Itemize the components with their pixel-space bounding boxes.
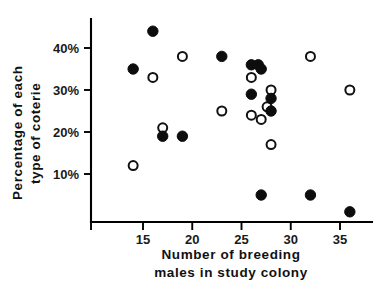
x-axis-group: 1520253035	[91, 222, 372, 247]
x-axis-title-line2: males in study colony	[154, 265, 308, 280]
x-axis-title-line1: Number of breeding	[161, 247, 300, 262]
data-point-open-5	[247, 73, 256, 82]
x-axis-title: Number of breeding males in study colony	[154, 247, 308, 280]
x-tick-label-30: 30	[284, 232, 298, 247]
x-tick-label-15: 15	[136, 232, 150, 247]
data-point-filled-7	[246, 89, 256, 99]
data-point-open-4	[217, 107, 226, 116]
data-point-open-7	[257, 115, 266, 124]
y-axis-group: 10%20%30%40%	[53, 19, 91, 222]
data-point-filled-2	[158, 131, 168, 141]
data-point-filled-3	[177, 131, 187, 141]
data-point-filled-13	[345, 207, 355, 217]
data-points-open-circles	[129, 52, 355, 170]
y-axis-title-line1: Percentage of each	[10, 65, 25, 200]
data-point-filled-11	[256, 190, 266, 200]
x-tick-label-20: 20	[185, 232, 199, 247]
data-point-open-1	[148, 73, 157, 82]
data-point-open-3	[178, 52, 187, 61]
y-axis-title: Percentage of each type of coterie	[10, 65, 43, 200]
data-point-open-10	[267, 140, 276, 149]
y-tick-label-20: 20%	[53, 125, 79, 140]
x-tick-labels: 1520253035	[136, 232, 347, 247]
data-point-filled-8	[256, 64, 266, 74]
plot-canvas: 10%20%30%40% 1520253035 Percentage of ea…	[0, 0, 382, 289]
data-point-open-12	[345, 86, 354, 95]
y-tick-label-40: 40%	[53, 41, 79, 56]
data-point-open-11	[306, 52, 315, 61]
data-point-open-6	[247, 111, 256, 120]
y-tick-labels: 10%20%30%40%	[53, 41, 79, 182]
data-point-filled-12	[305, 190, 315, 200]
data-point-filled-4	[217, 51, 227, 61]
y-axis-title-line2: type of coterie	[28, 83, 43, 184]
scatter-plot-figure: 10%20%30%40% 1520253035 Percentage of ea…	[0, 0, 382, 289]
data-point-filled-10	[266, 106, 276, 116]
x-tick-label-25: 25	[234, 232, 248, 247]
data-points-filled-circles	[128, 26, 355, 217]
x-tick-marks	[91, 222, 340, 230]
y-tick-label-10: 10%	[53, 167, 79, 182]
data-point-filled-9	[266, 93, 276, 103]
x-tick-label-35: 35	[333, 232, 347, 247]
y-tick-label-30: 30%	[53, 83, 79, 98]
data-point-filled-1	[148, 26, 158, 36]
data-point-open-0	[129, 161, 138, 170]
data-point-filled-0	[128, 64, 138, 74]
